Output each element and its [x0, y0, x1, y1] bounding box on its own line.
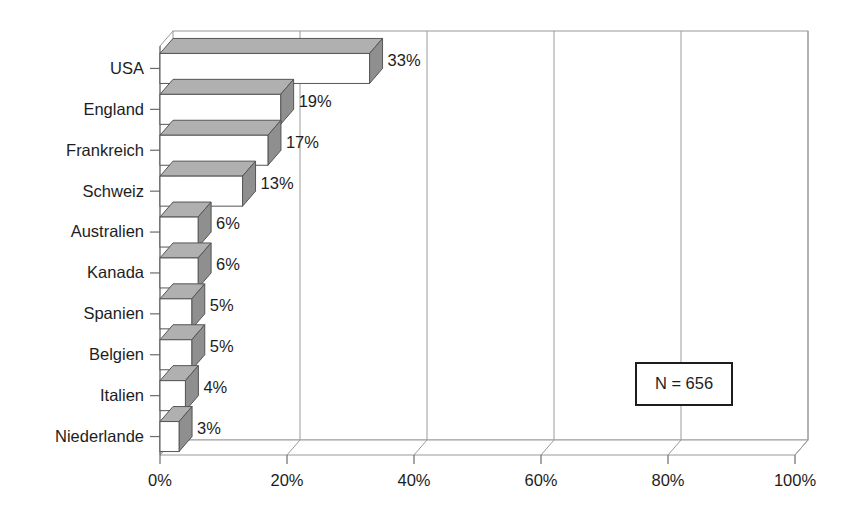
bar-value-label: 6%	[216, 214, 240, 232]
sample-size-label: N = 656	[655, 374, 713, 392]
bar	[160, 284, 205, 329]
category-label: Belgien	[89, 345, 144, 363]
category-label: Niederlande	[55, 427, 144, 445]
category-label: Kanada	[87, 263, 145, 281]
category-label: England	[83, 100, 144, 118]
category-label: Italien	[100, 386, 144, 404]
x-axis-tick-label: 60%	[524, 471, 557, 489]
bar-top-face	[160, 38, 383, 53]
category-label: Australien	[71, 222, 144, 240]
bar	[160, 79, 294, 124]
floor-plane	[160, 440, 808, 455]
bar-top-face	[160, 120, 281, 135]
bar-front-face	[160, 422, 179, 452]
category-axis-labels: USAEnglandFrankreichSchweizAustralienKan…	[55, 59, 145, 445]
bar-top-face	[160, 161, 256, 176]
bar-value-label: 19%	[299, 92, 332, 110]
bar-value-label: 33%	[388, 51, 421, 69]
x-axis-tick-label: 100%	[774, 471, 817, 489]
x-axis-tick-label: 40%	[397, 471, 430, 489]
bar	[160, 161, 256, 206]
category-label: Frankreich	[66, 141, 144, 159]
bar-value-label: 6%	[216, 255, 240, 273]
x-axis-tick-label: 80%	[651, 471, 684, 489]
bar	[160, 202, 211, 247]
bar	[160, 243, 211, 288]
bar-top-face	[160, 79, 294, 94]
bar	[160, 325, 205, 370]
bar-chart-3d: USAEnglandFrankreichSchweizAustralienKan…	[0, 0, 852, 526]
category-label: USA	[110, 59, 144, 77]
category-label: Schweiz	[83, 182, 144, 200]
category-label: Spanien	[83, 304, 144, 322]
bar-value-label: 17%	[286, 133, 319, 151]
x-axis-tick-label: 20%	[270, 471, 303, 489]
bar-value-label: 3%	[197, 419, 221, 437]
sample-size-annotation: N = 656	[636, 363, 732, 405]
x-axis-tick-label: 0%	[148, 471, 172, 489]
chart-container: USAEnglandFrankreichSchweizAustralienKan…	[0, 0, 852, 526]
bar	[160, 38, 383, 83]
bar	[160, 120, 281, 165]
bar-value-label: 5%	[210, 337, 234, 355]
value-axis-labels: 0%20%40%60%80%100%	[148, 471, 816, 489]
bar-value-label: 13%	[261, 174, 294, 192]
bar-value-label: 4%	[203, 378, 227, 396]
bar-value-label: 5%	[210, 296, 234, 314]
